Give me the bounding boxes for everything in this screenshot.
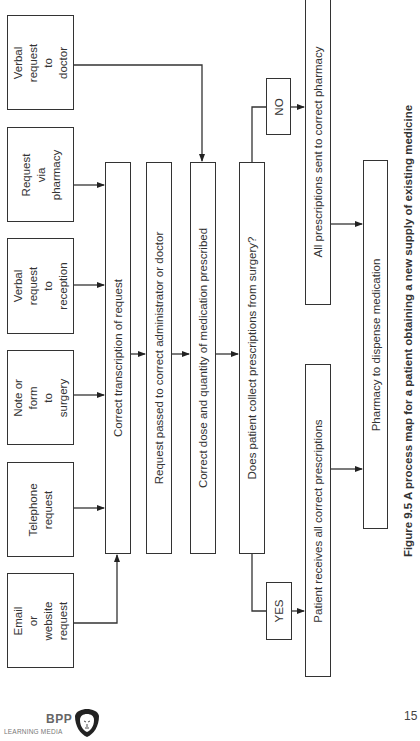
branch-yes-label: YES [272,599,287,622]
step-label-dose: Correct dose and quantity of medication … [196,228,211,488]
step-box-passed: Request passed to correct administrator … [146,162,172,554]
outcome-pharmacy-label: All prescriptions sent to correct pharma… [311,46,326,257]
bpp-logo: BPP LEARNING MEDIA [2,708,102,740]
figure-caption: Figure 9.5 A process map for a patient o… [402,105,414,557]
input-label-reception: Verbal request to reception [11,262,71,309]
branch-yes-box: YES [266,582,292,640]
input-label-note: Note or form to surgery [11,378,71,416]
decision-label: Does patient collect prescriptions from … [245,237,260,480]
logo-subtitle: LEARNING MEDIA [4,728,62,735]
lion-shield-icon [74,708,100,738]
branch-no-label: NO [271,98,286,115]
final-dispense-box: Pharmacy to dispense medication [363,160,388,529]
step-box-transcription: Correct transcription of request [105,162,131,554]
final-dispense-label: Pharmacy to dispense medication [368,258,383,431]
outcome-patient-label: Patient receives all correct prescriptio… [311,419,326,622]
input-box-reception: Verbal request to reception [7,238,74,334]
input-label-telephone: Telephone request [26,483,56,536]
logo-brand: BPP [46,712,72,726]
step-label-passed: Request passed to correct administrator … [152,232,167,484]
branch-no-box: NO [266,78,291,135]
input-box-email: Email or website request [7,573,74,668]
decision-box: Does patient collect prescriptions from … [239,162,265,554]
outcome-patient-box: Patient receives all correct prescriptio… [305,364,331,677]
input-label-doctor: Verbal request to doctor [11,43,71,81]
step-box-dose: Correct dose and quantity of medication … [190,162,216,554]
input-box-doctor: Verbal request to doctor [7,15,74,110]
outcome-pharmacy-box: All prescriptions sent to correct pharma… [305,0,331,305]
step-label-transcription: Correct transcription of request [111,279,126,437]
page-number: 15 [404,709,417,723]
input-box-pharmacy-request: Request via pharmacy [7,127,74,222]
input-box-note: Note or form to surgery [7,350,74,445]
input-label-email: Email or website request [11,601,71,640]
input-label-pharmacy-request: Request via pharmacy [18,149,63,200]
input-box-telephone: Telephone request [7,462,74,557]
